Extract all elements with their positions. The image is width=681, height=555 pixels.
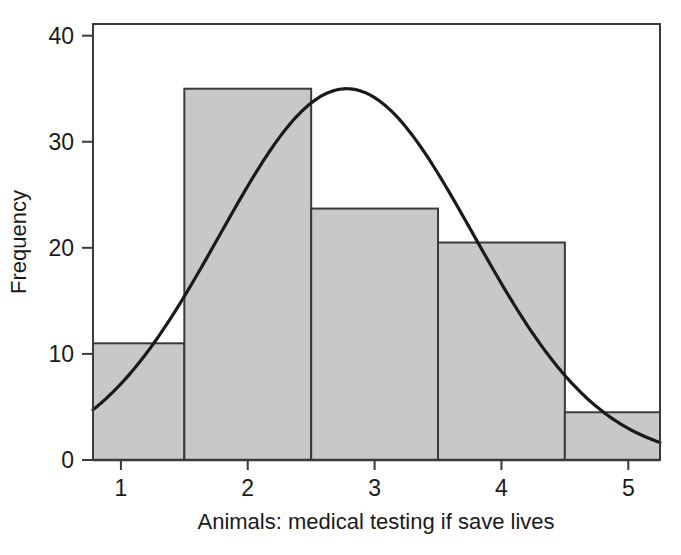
histogram-figure: 12345 010203040 Animals: medical testing… bbox=[0, 0, 681, 555]
y-tick-label: 10 bbox=[48, 341, 74, 367]
y-tick-label: 30 bbox=[48, 129, 74, 155]
y-tick-label: 0 bbox=[61, 447, 74, 473]
chart-canvas: 12345 010203040 Animals: medical testing… bbox=[0, 0, 681, 555]
x-tick-label: 3 bbox=[368, 475, 381, 501]
bars-group bbox=[93, 89, 660, 460]
histogram-bar bbox=[184, 89, 311, 460]
x-axis-ticks: 12345 bbox=[115, 460, 635, 501]
x-axis-title: Animals: medical testing if save lives bbox=[197, 509, 554, 534]
x-tick-label: 4 bbox=[495, 475, 508, 501]
x-tick-label: 5 bbox=[622, 475, 635, 501]
y-axis-title: Frequency bbox=[6, 190, 31, 294]
x-tick-label: 1 bbox=[115, 475, 128, 501]
y-axis-ticks: 010203040 bbox=[48, 23, 93, 473]
y-tick-label: 20 bbox=[48, 235, 74, 261]
y-tick-label: 40 bbox=[48, 23, 74, 49]
x-tick-label: 2 bbox=[241, 475, 254, 501]
histogram-bar bbox=[311, 209, 438, 460]
